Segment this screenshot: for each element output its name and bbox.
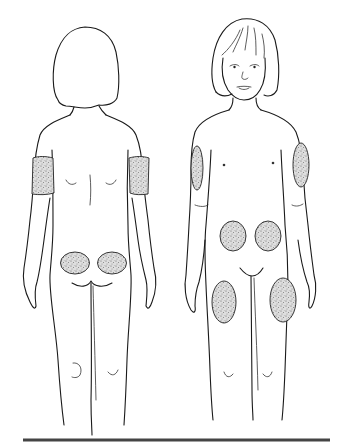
back-injection-sites xyxy=(32,157,149,275)
injection-sites-diagram xyxy=(0,0,343,445)
site-left-buttock xyxy=(61,252,90,274)
site-left-upper-arm-back xyxy=(32,157,54,195)
site-left-upper-arm-outer xyxy=(293,143,309,187)
front-head-hair xyxy=(212,19,279,96)
front-view-figure xyxy=(185,19,316,420)
front-injection-sites xyxy=(191,143,309,323)
back-torso-outline xyxy=(23,115,70,308)
site-abdomen-right xyxy=(220,221,246,251)
site-right-upper-arm-outer xyxy=(191,146,203,190)
site-right-thigh xyxy=(212,281,236,323)
site-left-thigh xyxy=(270,278,296,322)
site-right-upper-arm-back xyxy=(129,157,149,195)
site-right-buttock xyxy=(98,252,127,274)
site-abdomen-left xyxy=(255,221,281,251)
back-head-hair xyxy=(53,27,119,108)
back-view-figure xyxy=(23,27,155,435)
